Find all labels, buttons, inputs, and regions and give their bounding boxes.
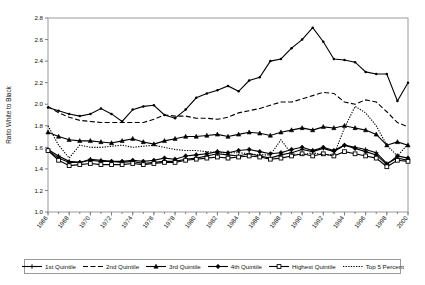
marker-dot — [396, 100, 399, 103]
x-axis-tick-label: 1974 — [120, 214, 134, 230]
marker-dot — [375, 73, 378, 76]
marker-dot — [79, 115, 82, 118]
x-axis-tick-text: 1998 — [374, 214, 388, 230]
x-axis-tick-text: 2000 — [395, 214, 409, 230]
marker-square — [237, 155, 241, 159]
legend-item-top-5-percent[interactable]: Top 5 Percent — [342, 262, 404, 271]
legend-item-2nd-quintile[interactable]: 2nd Quintile — [82, 262, 139, 271]
marker-square — [385, 165, 389, 169]
marker-square — [173, 161, 177, 165]
y-axis-title: Ratio White to Black — [5, 85, 12, 143]
x-axis-tick-label: 1996 — [352, 214, 366, 230]
marker-square — [46, 149, 50, 153]
marker-dot — [174, 117, 177, 120]
x-axis-tick-label: 1976 — [141, 214, 155, 230]
marker-square — [364, 154, 368, 158]
legend-swatch-square — [268, 262, 290, 271]
y-axis-tick-label: 1.2 — [34, 187, 43, 194]
marker-square — [163, 161, 167, 165]
marker-dot — [68, 113, 71, 116]
marker-dot — [57, 109, 60, 112]
marker-dot — [89, 113, 92, 116]
marker-cross — [30, 264, 34, 268]
marker-dot — [227, 85, 230, 88]
x-axis-tick-text: 1976 — [141, 214, 155, 230]
marker-square — [311, 154, 315, 158]
marker-dot — [163, 114, 166, 117]
y-axis-tick-label: 2.2 — [34, 79, 43, 86]
x-axis-tick-label: 1990 — [289, 214, 303, 230]
plot-frame — [48, 18, 408, 212]
marker-square — [258, 155, 262, 159]
y-axis-tick-label: 2.8 — [34, 14, 43, 21]
marker-diamond — [162, 156, 166, 161]
marker-diamond — [184, 154, 188, 159]
x-axis-tick-label: 1972 — [98, 214, 112, 230]
x-axis-tick-label: 1988 — [268, 214, 282, 230]
marker-dot — [121, 120, 124, 123]
x-axis-tick-text: 1988 — [268, 214, 282, 230]
marker-square — [268, 157, 272, 161]
marker-dot — [333, 58, 336, 61]
marker-square — [374, 156, 378, 160]
marker-dot — [153, 104, 156, 107]
marker-square — [279, 156, 283, 160]
marker-square — [88, 162, 92, 166]
marker-dot — [195, 97, 198, 100]
y-axis-tick-label: 1.8 — [34, 122, 43, 129]
x-axis-tick-text: 1978 — [162, 214, 176, 230]
x-axis-tick-label: 1966 — [35, 214, 49, 230]
marker-square — [78, 163, 82, 167]
x-axis-tick-text: 1980 — [183, 214, 197, 230]
marker-dot — [110, 113, 113, 116]
marker-square — [216, 155, 220, 159]
x-axis-tick-label: 1984 — [225, 214, 239, 230]
marker-square — [343, 150, 347, 154]
marker-square — [57, 158, 61, 162]
marker-dot — [259, 76, 262, 79]
legend-item-highest-quintile[interactable]: Highest Quintile — [268, 262, 336, 271]
marker-triangle — [131, 136, 135, 140]
marker-triangle — [46, 130, 50, 134]
marker-diamond — [258, 149, 262, 154]
x-axis-tick-text: 1966 — [35, 214, 49, 230]
marker-square — [99, 163, 103, 167]
marker-square — [332, 154, 336, 158]
x-axis-tick-text: 1968 — [56, 214, 70, 230]
legend-item-3rd-quintile[interactable]: 3rd Quintile — [145, 262, 201, 271]
marker-dot — [248, 79, 251, 82]
marker-dot — [184, 108, 187, 111]
legend-label: 4th Quintile — [231, 263, 262, 270]
x-axis-tick-text: 1984 — [225, 214, 239, 230]
x-axis-tick-text: 1986 — [247, 214, 261, 230]
marker-dot — [343, 59, 346, 62]
legend-label: 2nd Quintile — [106, 263, 139, 270]
marker-triangle — [395, 140, 399, 144]
marker-dot — [237, 90, 240, 93]
marker-dot — [206, 92, 209, 95]
legend-item-4th-quintile[interactable]: 4th Quintile — [207, 262, 262, 271]
marker-dot — [216, 89, 219, 92]
marker-dot — [131, 108, 134, 111]
chart-legend: 1st Quintile2nd Quintile3rd Quintile4th … — [24, 259, 401, 274]
y-axis-tick-label: 2.0 — [34, 100, 43, 107]
x-axis-tick-text: 1982 — [204, 214, 218, 230]
legend-label: 1st Quintile — [45, 263, 76, 270]
legend-swatch-none — [342, 262, 364, 271]
legend-swatch-cross — [21, 262, 43, 271]
x-axis-tick-label: 1978 — [162, 214, 176, 230]
x-axis-tick-label: 2000 — [395, 214, 409, 230]
marker-dot — [47, 106, 50, 109]
marker-square — [290, 154, 294, 158]
marker-triangle — [300, 126, 304, 130]
x-axis-tick-label: 1992 — [310, 214, 324, 230]
marker-square — [277, 265, 281, 269]
marker-dot — [311, 26, 314, 29]
marker-dot — [322, 40, 325, 43]
y-axis-tick-label: 1.4 — [34, 165, 43, 172]
legend-item-1st-quintile[interactable]: 1st Quintile — [21, 262, 76, 271]
x-axis-tick-label: 1968 — [56, 214, 70, 230]
marker-square — [141, 163, 145, 167]
x-axis-tick-label: 1982 — [204, 214, 218, 230]
marker-square — [396, 158, 400, 162]
